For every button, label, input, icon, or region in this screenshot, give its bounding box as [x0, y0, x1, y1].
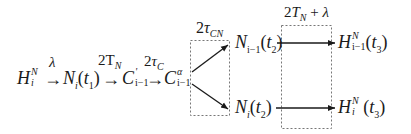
box-label-2tn-lambda: 2TN + λ	[284, 5, 329, 23]
dashed-box-2tau-cn	[191, 41, 230, 116]
box-label-2tau-cn: 2τCN	[196, 20, 223, 39]
arrow-1: →	[44, 70, 62, 88]
branch-arrow-lower	[192, 84, 228, 109]
node-c-alpha-i-1: Cαi−1	[164, 69, 190, 90]
node-h-i-1-n-t3: HNi−1(t3)	[338, 33, 387, 54]
node-n-i-1-t2: Ni−1(t2)	[235, 33, 282, 51]
branch-arrow-upper	[192, 45, 228, 72]
node-n-i-t1: Ni(1t1)	[63, 69, 100, 87]
arrow-3: →	[146, 70, 164, 88]
arrow-2: →	[102, 70, 120, 88]
dashed-box-2tn-lambda	[282, 26, 332, 129]
node-n-i-t2: Ni(t2)	[235, 98, 272, 116]
node-h-i-n-t3: HNi (t3)	[338, 98, 385, 119]
node-h-i-n: HNi	[17, 69, 38, 90]
arrow-label-lambda: λ	[49, 55, 56, 70]
node-c-prime-i-1: C'i−1	[122, 69, 148, 90]
